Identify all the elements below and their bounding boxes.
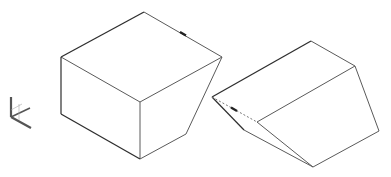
wedge[interactable] [212, 41, 379, 167]
drawing-canvas[interactable] [0, 0, 391, 177]
grip-marker [231, 108, 237, 112]
cad-viewport [0, 0, 391, 177]
beveled-box[interactable] [61, 12, 222, 159]
grip-marker [180, 32, 186, 36]
ucs-axis-icon [11, 97, 31, 128]
